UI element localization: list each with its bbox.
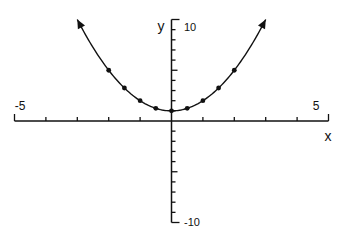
- y-tick-label-min: -10: [184, 216, 200, 228]
- data-point: [232, 68, 237, 73]
- y-axis-label: y: [158, 18, 165, 34]
- data-point: [122, 86, 127, 91]
- parabola-chart: x y -5 5 10 -10: [0, 0, 344, 237]
- data-point: [169, 108, 174, 113]
- data-point: [201, 98, 206, 103]
- x-tick-label-max: 5: [313, 99, 320, 113]
- y-tick-label-max: 10: [184, 21, 196, 33]
- data-point: [216, 86, 221, 91]
- data-point: [106, 68, 111, 73]
- x-axis-label: x: [325, 128, 332, 144]
- data-point: [153, 106, 158, 111]
- data-point: [185, 106, 190, 111]
- x-tick-label-min: -5: [15, 99, 26, 113]
- data-point: [138, 98, 143, 103]
